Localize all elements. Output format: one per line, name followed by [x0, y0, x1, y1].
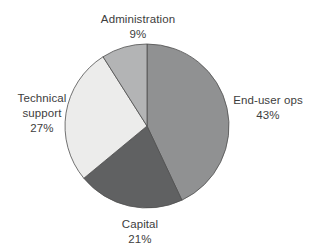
slice-percent: 21% [90, 232, 190, 247]
slice-percent: 43% [223, 108, 313, 123]
slice-name: Capital [90, 217, 190, 232]
slice-percent: 27% [9, 121, 75, 136]
label-administration: Administration 9% [78, 12, 198, 42]
label-technical-support: Technical support 27% [9, 91, 75, 136]
pie-chart-figure: Administration 9% End-user ops 43% Techn… [0, 0, 316, 251]
label-end-user-ops: End-user ops 43% [223, 93, 313, 123]
slice-name: Administration [78, 12, 198, 27]
slice-percent: 9% [78, 27, 198, 42]
slice-name: End-user ops [223, 93, 313, 108]
slice-name: Technical support [9, 91, 75, 121]
label-capital: Capital 21% [90, 217, 190, 247]
